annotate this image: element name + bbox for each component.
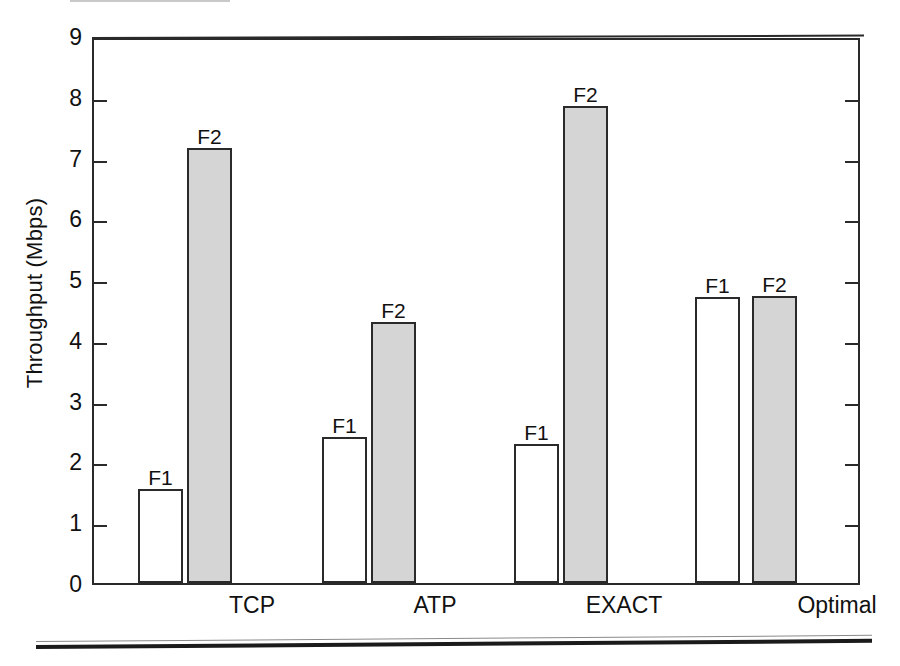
y-axis-tick-left bbox=[94, 525, 107, 527]
bar-value-label: F1 bbox=[332, 415, 357, 436]
x-category-label-exact: EXACT bbox=[534, 592, 714, 618]
bar-value-label: F1 bbox=[148, 467, 173, 488]
plot-area: F1F2F1F2F1F2F1F2 bbox=[92, 38, 860, 585]
bar-tcp-f2: F2 bbox=[187, 148, 232, 583]
bar-value-label: F2 bbox=[573, 84, 598, 105]
y-axis-tick-left bbox=[94, 221, 107, 223]
bar-atp-f1: F1 bbox=[322, 437, 367, 583]
bar-value-label: F2 bbox=[197, 126, 222, 147]
y-axis-tick-right bbox=[845, 464, 858, 466]
x-category-label-tcp: TCP bbox=[162, 592, 342, 618]
bar-value-label: F1 bbox=[705, 275, 730, 296]
y-axis-tick-left bbox=[94, 343, 107, 345]
y-axis-tick-right bbox=[845, 221, 858, 223]
y-axis-title: Throughput (Mbps) bbox=[22, 103, 48, 483]
y-axis-tick-right bbox=[845, 282, 858, 284]
bar-optimal-f2: F2 bbox=[752, 296, 797, 583]
bar-atp-f2: F2 bbox=[371, 322, 416, 583]
y-tick-label: 9 bbox=[0, 26, 82, 49]
bar-tcp-f1: F1 bbox=[138, 489, 183, 583]
y-axis-tick-left bbox=[94, 404, 107, 406]
y-tick-label: 0 bbox=[0, 573, 82, 596]
figure-container: Throughput (Mbps) 0123456789 F1F2F1F2F1F… bbox=[0, 0, 900, 666]
bar-value-label: F2 bbox=[762, 274, 787, 295]
y-axis-tick-right bbox=[845, 404, 858, 406]
bar-optimal-f1: F1 bbox=[695, 297, 740, 583]
y-axis-tick-right bbox=[845, 343, 858, 345]
y-axis-tick-left bbox=[94, 161, 107, 163]
bar-value-label: F1 bbox=[524, 422, 549, 443]
y-axis-tick-right bbox=[845, 100, 858, 102]
y-tick-label: 1 bbox=[0, 512, 82, 535]
y-axis-tick-left bbox=[94, 100, 107, 102]
y-axis-tick-right bbox=[845, 525, 858, 527]
bar-exact-f1: F1 bbox=[514, 444, 559, 583]
x-category-label-atp: ATP bbox=[345, 592, 525, 618]
y-axis-tick-left bbox=[94, 282, 107, 284]
y-axis-tick-left bbox=[94, 464, 107, 466]
scan-edge-artifact bbox=[70, 0, 230, 2]
y-axis-tick-right bbox=[845, 161, 858, 163]
bar-exact-f2: F2 bbox=[563, 106, 608, 583]
bar-value-label: F2 bbox=[381, 300, 406, 321]
x-category-label-optimal: Optimal bbox=[747, 592, 900, 618]
